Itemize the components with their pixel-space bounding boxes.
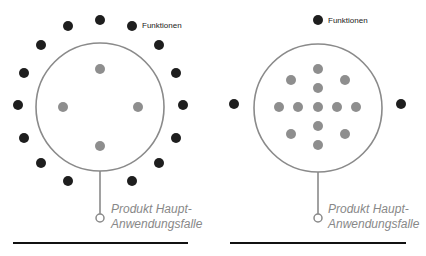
usecase-dot [286, 75, 296, 85]
diagram-canvas: Funktionen Produkt Haupt- Anwendungsfall… [0, 0, 426, 256]
usecase-dot [58, 102, 68, 112]
usecase-dot [286, 129, 296, 139]
feature-dot [36, 158, 46, 168]
product-label-line2: Anwendungsfalle [327, 217, 420, 231]
stem-end-ring [314, 214, 322, 222]
feature-dot [178, 100, 188, 110]
product-circle [36, 43, 164, 171]
feature-dot [36, 40, 46, 50]
usecase-dot [332, 102, 342, 112]
product-label-line1: Produkt Haupt- [328, 202, 409, 216]
feature-dot [154, 40, 164, 50]
usecase-dot [340, 129, 350, 139]
feature-dot [19, 133, 29, 143]
feature-dots [13, 15, 188, 186]
usecase-dot [340, 75, 350, 85]
usecase-dot [95, 64, 105, 74]
feature-dot [63, 21, 73, 31]
usecase-dot [95, 141, 105, 151]
right-diagram: Funktionen Produkt Haupt- Anwendungsfall… [229, 15, 420, 243]
left-diagram: Funktionen Produkt Haupt- Anwendungsfall… [13, 15, 203, 243]
features-label: Funktionen [142, 21, 182, 30]
usecase-dot [313, 64, 323, 74]
feature-dot [95, 15, 105, 25]
stem-end-ring [96, 214, 104, 222]
usecase-dot [274, 102, 284, 112]
usecase-dots [274, 64, 361, 150]
product-label-line2: Anwendungsfalle [110, 217, 203, 231]
usecase-dot [351, 102, 361, 112]
feature-dot [396, 99, 406, 109]
usecase-dot [313, 83, 323, 93]
feature-dot [127, 21, 137, 31]
feature-dot [154, 158, 164, 168]
usecase-dot [313, 140, 323, 150]
usecase-dots [58, 64, 143, 151]
feature-dot [313, 15, 323, 25]
feature-dot [171, 68, 181, 78]
feature-dot [127, 176, 137, 186]
product-label-line1: Produkt Haupt- [111, 202, 192, 216]
usecase-dot [313, 102, 323, 112]
feature-dot [63, 176, 73, 186]
feature-dot [13, 100, 23, 110]
usecase-dot [313, 121, 323, 131]
feature-dot [19, 68, 29, 78]
feature-dot [171, 133, 181, 143]
feature-dot [229, 99, 239, 109]
features-label: Funktionen [328, 16, 368, 25]
usecase-dot [133, 102, 143, 112]
usecase-dot [293, 102, 303, 112]
